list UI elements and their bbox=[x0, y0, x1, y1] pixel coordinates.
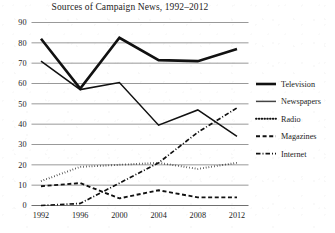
x-tick-label: 2012 bbox=[229, 211, 245, 220]
x-tick-label: 1996 bbox=[72, 211, 88, 220]
y-tick-label: 60 bbox=[18, 79, 26, 88]
legend-label-internet: Internet bbox=[281, 150, 307, 159]
y-tick-label: 0 bbox=[22, 201, 26, 210]
series-line-internet bbox=[41, 108, 237, 206]
legend-label-newspapers: Newspapers bbox=[281, 97, 321, 106]
x-tick-label: 1992 bbox=[33, 211, 49, 220]
y-tick-label: 40 bbox=[18, 120, 26, 129]
x-tick-label: 2008 bbox=[190, 211, 206, 220]
series-line-newspapers bbox=[41, 61, 237, 136]
series-line-radio bbox=[41, 163, 237, 181]
x-axis-tick-labels: 199219962000200420082012 bbox=[33, 211, 245, 220]
y-tick-label: 80 bbox=[18, 39, 26, 48]
y-tick-label: 20 bbox=[18, 161, 26, 170]
chart-figure: Sources of Campaign News, 1992–2012 0102… bbox=[0, 0, 335, 233]
legend-label-radio: Radio bbox=[281, 115, 301, 124]
y-tick-label: 50 bbox=[18, 100, 26, 109]
x-tick-label: 2000 bbox=[111, 211, 127, 220]
y-tick-label: 90 bbox=[18, 18, 26, 27]
y-tick-label: 70 bbox=[18, 59, 26, 68]
chart-legend: TelevisionNewspapersRadioMagazinesIntern… bbox=[256, 80, 321, 159]
line-chart-plot: 0102030405060708090 19921996200020042008… bbox=[0, 0, 335, 233]
y-axis-tick-labels: 0102030405060708090 bbox=[18, 18, 26, 210]
y-tick-label: 30 bbox=[18, 140, 26, 149]
legend-label-television: Television bbox=[281, 80, 315, 89]
legend-label-magazines: Magazines bbox=[281, 132, 316, 141]
y-tick-label: 10 bbox=[18, 181, 26, 190]
x-tick-label: 2004 bbox=[150, 211, 166, 220]
